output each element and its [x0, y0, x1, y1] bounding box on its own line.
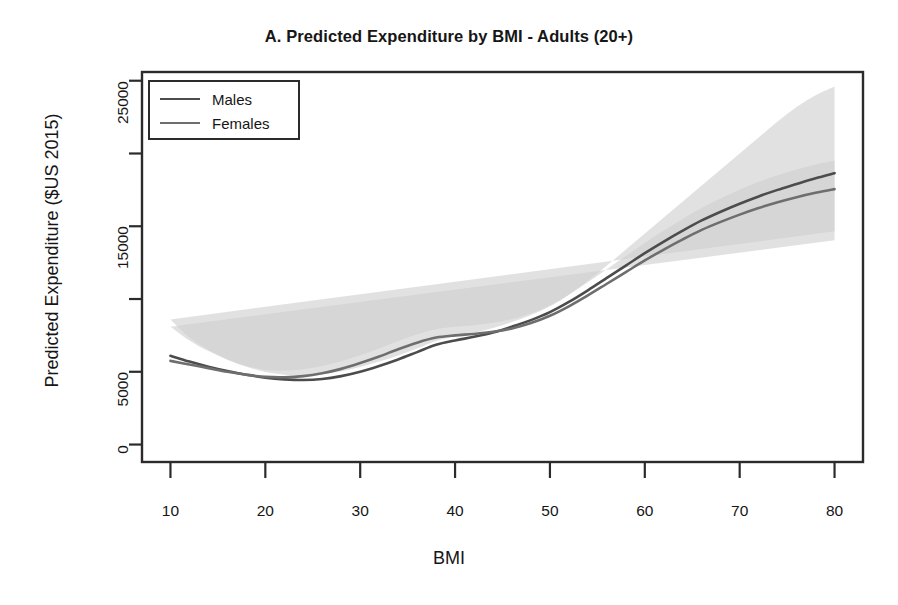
legend-swatch-females-icon	[160, 122, 200, 124]
x-tick-label: 80	[812, 502, 858, 520]
y-tick-label: 5000	[114, 372, 132, 406]
chart-figure: A. Predicted Expenditure by BMI - Adults…	[0, 0, 898, 605]
y-tick-label: 0	[114, 445, 132, 454]
x-tick-label: 60	[622, 502, 668, 520]
x-tick-label: 20	[242, 502, 288, 520]
x-tick-label: 10	[147, 502, 193, 520]
x-tick-label: 30	[337, 502, 383, 520]
legend-item-males: Males	[160, 87, 252, 111]
legend-item-females: Females	[160, 111, 270, 135]
y-tick-label: 15000	[114, 226, 132, 269]
x-tick-label: 40	[432, 502, 478, 520]
legend-swatch-males-icon	[160, 98, 200, 100]
chart-legend: Males Females	[148, 80, 300, 140]
confidence-band-females	[170, 161, 834, 371]
x-tick-label: 50	[527, 502, 573, 520]
x-tick-label: 70	[717, 502, 763, 520]
legend-label-males: Males	[212, 92, 252, 107]
y-tick-label: 25000	[114, 81, 132, 124]
legend-label-females: Females	[212, 116, 270, 131]
